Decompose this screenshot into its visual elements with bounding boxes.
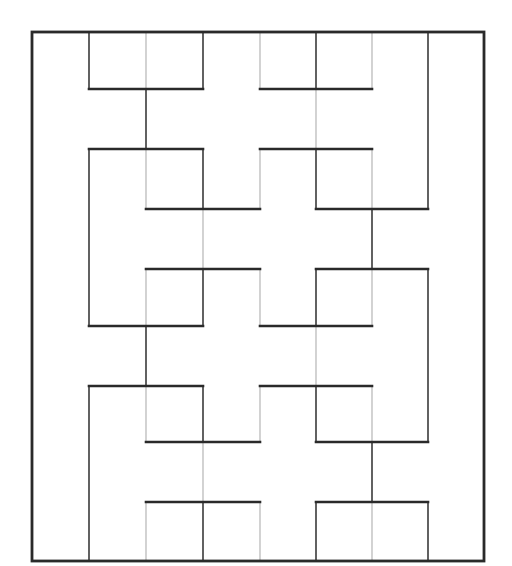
- curve-vertical-lines: [89, 32, 428, 561]
- curve-horizontal-lines: [89, 89, 428, 502]
- curve-diagram: [0, 0, 512, 566]
- outer-frame: [32, 32, 484, 561]
- grid-light-lines: [146, 32, 372, 561]
